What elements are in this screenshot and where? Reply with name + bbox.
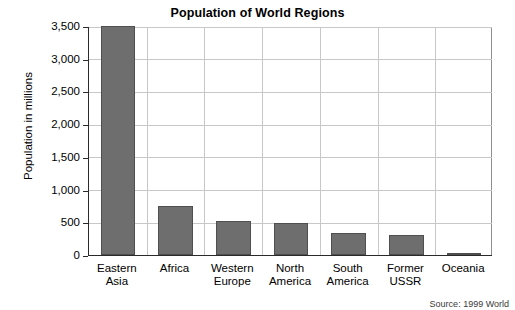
gridline-vertical [320, 27, 321, 255]
x-tick-label-line: Eastern [88, 262, 146, 275]
x-tick-label-line: USSR [377, 275, 435, 288]
x-tick-label: Oceania [434, 262, 492, 275]
gridline-horizontal [89, 125, 492, 126]
gridline-horizontal [89, 92, 492, 93]
gridline-horizontal [89, 190, 492, 191]
bar [389, 235, 424, 255]
x-tick-label-line: Asia [88, 275, 146, 288]
x-tick-label: EasternAsia [88, 262, 146, 288]
gridline-horizontal [89, 59, 492, 60]
x-tick-label: SouthAmerica [319, 262, 377, 288]
x-tick-label-line: Western [203, 262, 261, 275]
x-tick-label: FormerUSSR [377, 262, 435, 288]
gridline-vertical [147, 27, 148, 255]
y-tick-mark [83, 27, 88, 28]
source-note: Source: 1999 World [430, 299, 509, 309]
bar [158, 206, 193, 255]
gridline-horizontal [89, 157, 492, 158]
bar [274, 223, 309, 255]
x-tick-label: WesternEurope [203, 262, 261, 288]
y-tick-mark [83, 158, 88, 159]
gridline-vertical [378, 27, 379, 255]
y-tick-mark [83, 256, 88, 257]
y-tick-mark [83, 125, 88, 126]
gridlines [89, 27, 492, 255]
y-tick-label: 2,000 [28, 119, 80, 130]
gridline-vertical [262, 27, 263, 255]
x-tick-label-line: America [261, 275, 319, 288]
x-tick-label-line: North [261, 262, 319, 275]
gridline-vertical [204, 27, 205, 255]
bar [216, 221, 251, 255]
bar [447, 253, 482, 255]
y-tick-mark [83, 60, 88, 61]
y-tick-label: 0 [28, 250, 80, 261]
y-tick-mark [83, 223, 88, 224]
y-tick-label: 1,500 [28, 152, 80, 163]
gridline-vertical [435, 27, 436, 255]
y-tick-label: 3,000 [28, 54, 80, 65]
y-tick-label: 500 [28, 217, 80, 228]
x-tick-label: Africa [146, 262, 204, 275]
x-tick-label-line: Europe [203, 275, 261, 288]
gridline-horizontal [89, 27, 492, 28]
x-tick-label-line: Former [377, 262, 435, 275]
y-tick-mark [83, 92, 88, 93]
bar [101, 26, 136, 255]
chart-title: Population of World Regions [0, 6, 515, 20]
x-tick-label-line: South [319, 262, 377, 275]
y-tick-mark [83, 191, 88, 192]
bar [331, 233, 366, 255]
x-tick-label-line: America [319, 275, 377, 288]
x-tick-label-line: Africa [146, 262, 204, 275]
y-tick-label: 1,000 [28, 185, 80, 196]
x-tick-label-line: Oceania [434, 262, 492, 275]
bar-chart: Population of World Regions Population i… [0, 0, 515, 310]
plot-area [88, 27, 492, 256]
y-tick-label: 2,500 [28, 86, 80, 97]
y-tick-label: 3,500 [28, 21, 80, 32]
x-tick-label: NorthAmerica [261, 262, 319, 288]
